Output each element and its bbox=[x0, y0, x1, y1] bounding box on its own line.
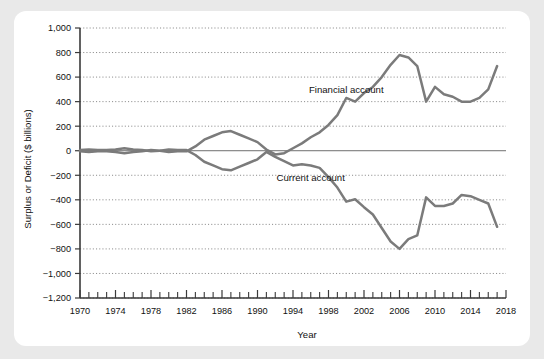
x-tick-label: 1986 bbox=[212, 306, 232, 316]
y-tick-label: −1,200 bbox=[43, 293, 71, 303]
y-tick-label: −400 bbox=[50, 195, 71, 205]
x-tick-label: 1970 bbox=[70, 306, 90, 316]
y-tick-label: 400 bbox=[56, 97, 71, 107]
balance-of-payments-line-chart: 1,0008006004002000−200−400−600−800−1,000… bbox=[14, 11, 530, 346]
x-tick-label: 1974 bbox=[105, 306, 125, 316]
annotation-financial-account: Financial account bbox=[309, 84, 384, 95]
y-tick-label: 600 bbox=[56, 72, 71, 82]
x-tick-label: 1994 bbox=[283, 306, 303, 316]
x-axis-title: Year bbox=[297, 329, 317, 340]
annotation-current-account: Current account bbox=[277, 172, 346, 183]
chart-plot-area: 1,0008006004002000−200−400−600−800−1,000… bbox=[14, 11, 530, 346]
x-tick-labels: 1970197419781982198619901994199820022006… bbox=[70, 306, 516, 316]
series-annotations: Financial accountCurrent account bbox=[277, 84, 384, 183]
x-tick-label: 2002 bbox=[354, 306, 374, 316]
x-tick-label: 2006 bbox=[389, 306, 409, 316]
y-tick-label: −200 bbox=[50, 171, 71, 181]
y-axis-title: Surplus or Deficit ($ billions) bbox=[22, 109, 33, 228]
x-tick-label: 1978 bbox=[141, 306, 161, 316]
x-tick-label: 1982 bbox=[176, 306, 196, 316]
gridlines-group bbox=[80, 28, 506, 298]
y-tick-labels: 1,0008006004002000−200−400−600−800−1,000… bbox=[43, 23, 71, 303]
y-tick-label: 200 bbox=[56, 122, 71, 132]
x-tick-label: 2010 bbox=[425, 306, 445, 316]
y-tick-label: −600 bbox=[50, 220, 71, 230]
y-tick-label: −1,000 bbox=[43, 269, 71, 279]
x-axis bbox=[80, 290, 506, 298]
series-line-current-account bbox=[80, 148, 497, 249]
y-tick-label: 800 bbox=[56, 48, 71, 58]
series-line-financial-account bbox=[80, 55, 497, 154]
chart-card: 1,0008006004002000−200−400−600−800−1,000… bbox=[14, 11, 530, 346]
x-tick-label: 2014 bbox=[460, 306, 480, 316]
data-series-group bbox=[80, 55, 497, 249]
y-tick-label: 0 bbox=[66, 146, 71, 156]
y-tick-label: 1,000 bbox=[48, 23, 71, 33]
x-tick-label: 2018 bbox=[496, 306, 516, 316]
y-axis bbox=[75, 28, 80, 298]
x-tick-label: 1998 bbox=[318, 306, 338, 316]
x-tick-label: 1990 bbox=[247, 306, 267, 316]
y-tick-label: −800 bbox=[50, 244, 71, 254]
